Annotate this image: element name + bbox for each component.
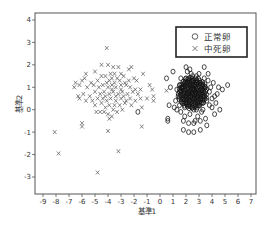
y-tick-label: -3 [24, 173, 31, 181]
y-axis-label: 基準2 [14, 94, 24, 113]
y-tick-label: 0 [27, 106, 31, 114]
x-tick-label: 4 [210, 198, 215, 206]
scatter-chart: -9-8-7-6-5-4-3-2-101234567 43210-1-2-3 基… [0, 0, 269, 228]
x-tick-label: 5 [223, 198, 227, 206]
x-tick-label: -9 [40, 198, 47, 206]
y-tick-label: 4 [27, 16, 32, 24]
x-tick-label: 1 [171, 198, 175, 206]
x-tick-label: -8 [53, 198, 60, 206]
x-tick-label: -5 [92, 198, 99, 206]
x-tick-label: 7 [249, 198, 253, 206]
legend-label-normal: 正常卵 [204, 32, 231, 42]
x-tick-label: -7 [66, 198, 73, 206]
x-axis-label: 基準1 [138, 206, 157, 216]
y-tick-label: -1 [24, 129, 31, 137]
y-tick-label: 2 [27, 61, 31, 69]
legend-label-dead: 中死卵 [204, 44, 231, 54]
x-tick-label: -3 [118, 198, 125, 206]
legend: 正常卵 中死卵 [176, 27, 247, 57]
x-tick-label: 0 [158, 198, 162, 206]
x-tick-label: -4 [105, 198, 113, 206]
y-tick-label: -2 [24, 151, 31, 159]
x-tick-label: -1 [144, 198, 151, 206]
x-axis: -9-8-7-6-5-4-3-2-101234567 [40, 194, 254, 206]
x-tick-label: -6 [79, 198, 87, 206]
y-tick-label: 1 [27, 84, 31, 92]
x-tick-label: 6 [236, 198, 241, 206]
y-axis: 43210-1-2-3 [24, 16, 35, 181]
y-tick-label: 3 [27, 39, 31, 47]
x-tick-label: 2 [184, 198, 188, 206]
x-tick-label: -2 [131, 198, 138, 206]
x-tick-label: 3 [197, 198, 201, 206]
